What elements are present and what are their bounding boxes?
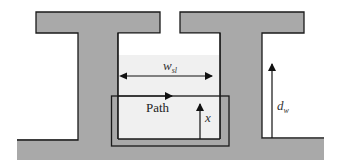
- path-label: Path: [146, 100, 170, 115]
- dw-label: dw: [277, 98, 290, 115]
- slot-diagram: wsl Path x dw: [0, 0, 339, 168]
- slot-floor: [118, 139, 220, 160]
- x-label: x: [204, 110, 211, 125]
- slot-top-white: [119, 34, 220, 55]
